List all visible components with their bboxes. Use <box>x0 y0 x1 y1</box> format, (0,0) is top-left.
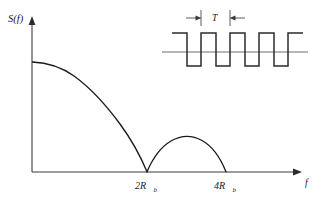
x-tick-label-2rb: 2R <box>135 180 146 191</box>
inset-square-wave-group: T <box>162 10 308 66</box>
inset-waveform-trace <box>172 33 303 66</box>
y-axis-group <box>29 16 36 172</box>
x-tick-label-4rb-subscript: b <box>233 186 237 194</box>
x-axis-arrowhead <box>293 169 302 176</box>
main-lobe-curve <box>33 62 148 172</box>
x-tick-label-4rb: 4R <box>214 180 225 191</box>
side-lobe-curve <box>147 137 226 172</box>
y-axis-label: S(f) <box>8 13 24 25</box>
period-dimension-group: T <box>186 10 245 26</box>
x-axis-label: f <box>305 178 309 188</box>
x-tick-label-4rb-group: 4R b <box>214 180 237 194</box>
x-tick-label-2rb-group: 2R b <box>135 180 158 194</box>
spectral-density-figure: 2R b 4R b S(f) f <box>0 0 322 206</box>
x-tick-label-2rb-subscript: b <box>154 186 158 194</box>
x-axis-group <box>32 169 302 176</box>
figure-container: 2R b 4R b S(f) f <box>0 0 322 206</box>
y-axis-arrowhead <box>29 16 36 25</box>
period-label-t: T <box>212 13 218 23</box>
